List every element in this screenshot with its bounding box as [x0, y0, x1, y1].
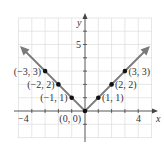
- point-label-0: (0, 0): [59, 113, 81, 125]
- point-label-1: (1, 1): [102, 92, 124, 104]
- tick-label-pos4: 4: [136, 113, 141, 124]
- point-0: [83, 109, 88, 114]
- point-label-2: (2, 2): [115, 79, 137, 91]
- point-label-m3: (−3, 3): [14, 66, 41, 78]
- x-axis-label: x: [155, 113, 161, 124]
- y-axis-label: y: [76, 17, 82, 28]
- point-3: [123, 69, 128, 74]
- point-m1: [69, 95, 74, 100]
- tick-label-5: 5: [76, 39, 81, 50]
- y-axis-arrow-icon: [83, 13, 88, 19]
- point-label-m2: (−2, 2): [27, 79, 54, 91]
- point-m2: [56, 82, 61, 87]
- point-label-m1: (−1, 1): [40, 92, 67, 104]
- point-1: [96, 95, 101, 100]
- point-label-3: (3, 3): [129, 66, 151, 78]
- tick-label-neg4: −4: [18, 113, 29, 124]
- point-2: [109, 82, 114, 87]
- abs-value-graph: y x 5 −4 4 (−3, 3) (−2, 2) (−1, 1) (0, 0…: [0, 0, 164, 145]
- point-m3: [43, 69, 48, 74]
